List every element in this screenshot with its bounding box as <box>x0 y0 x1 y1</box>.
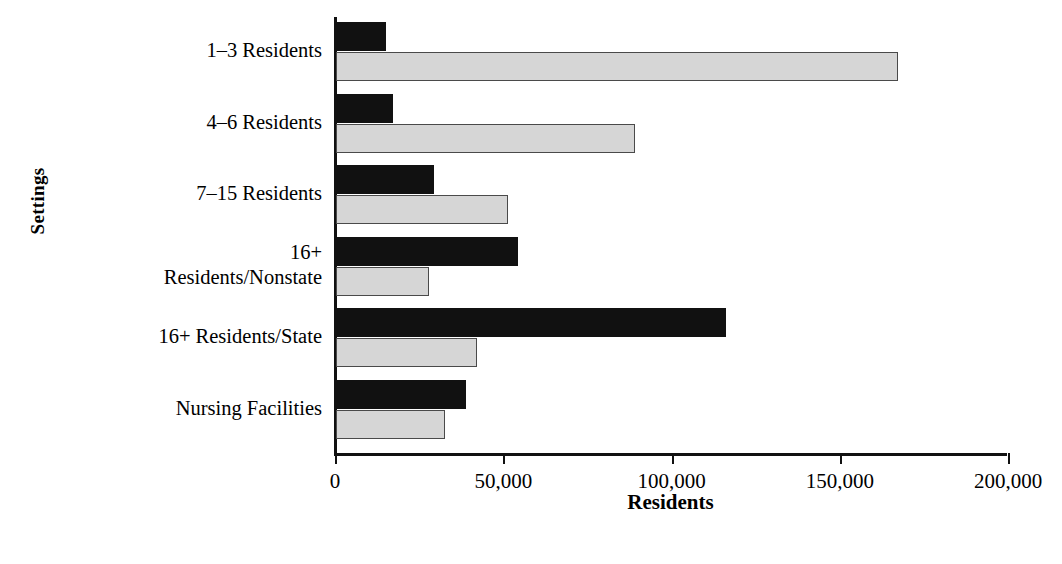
plot-area: 050,000100,000150,000200,000 <box>334 17 1034 449</box>
bar-dark <box>336 165 434 194</box>
bar-light <box>336 124 635 153</box>
bar-dark <box>336 308 726 337</box>
x-axis-tick <box>335 453 337 464</box>
category-label: 1–3 Residents <box>206 38 322 63</box>
category-axis-labels: 1–3 Residents4–6 Residents7–15 Residents… <box>70 17 328 449</box>
category-label: Nursing Facilities <box>176 396 322 421</box>
x-axis-tick <box>672 453 674 464</box>
bar-light <box>336 52 898 81</box>
category-label: 7–15 Residents <box>196 181 322 206</box>
category-label: 16+ Residents/State <box>158 324 322 349</box>
category-label: 4–6 Residents <box>206 110 322 135</box>
bar-light <box>336 338 477 367</box>
bar-light <box>336 195 508 224</box>
category-label: 16+ Residents/Nonstate <box>164 240 322 290</box>
bar-light <box>336 267 429 296</box>
bar-dark <box>336 22 386 51</box>
x-axis-tick <box>503 453 505 464</box>
bar-dark <box>336 94 393 123</box>
x-axis-tick <box>1008 453 1010 464</box>
bar-chart: Settings 1–3 Residents4–6 Residents7–15 … <box>0 0 1062 564</box>
x-axis-line <box>334 453 1007 456</box>
bar-dark <box>336 380 466 409</box>
x-axis-title: Residents <box>334 490 1007 515</box>
y-axis-title: Settings <box>27 121 49 281</box>
bar-light <box>336 410 445 439</box>
x-axis-tick <box>840 453 842 464</box>
bar-dark <box>336 237 518 266</box>
